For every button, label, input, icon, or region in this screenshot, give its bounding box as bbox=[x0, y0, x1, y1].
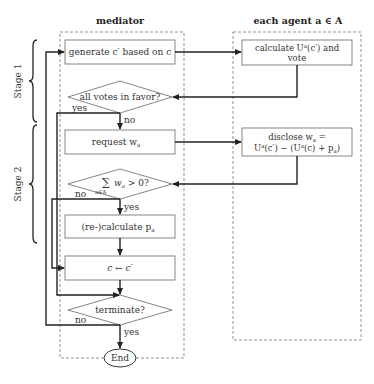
mediator-header: mediator bbox=[96, 15, 145, 26]
votes-yes-label: yes bbox=[71, 103, 87, 113]
stage1-label: Stage 1 bbox=[13, 64, 23, 99]
assign-label: c ← c′ bbox=[107, 263, 132, 273]
terminate-yes-label: yes bbox=[123, 327, 139, 337]
sum-condition: wa > 0? bbox=[114, 178, 149, 189]
stage2-label: Stage 2 bbox=[13, 167, 23, 202]
votes-no-label: no bbox=[124, 115, 135, 125]
generate-label: generate c′ based on c bbox=[69, 47, 171, 57]
edge-calculate-votes bbox=[173, 65, 297, 97]
terminate-label: terminate? bbox=[95, 305, 145, 315]
recalculate-label: (re-)calculate pa bbox=[82, 222, 156, 233]
agent-header: each agent a ∈ A bbox=[254, 15, 343, 26]
disclose-label-line2: Ua(c′) − (Ua(c) + pa) bbox=[254, 143, 340, 154]
request-label: request wa bbox=[92, 137, 141, 148]
all-votes-label: all votes in favor? bbox=[80, 92, 161, 102]
sum-symbol: ∑ bbox=[102, 176, 110, 189]
sum-no-label: no bbox=[75, 189, 86, 199]
end-label: End bbox=[111, 353, 129, 363]
edge-disclose-sum bbox=[173, 156, 297, 184]
disclose-label-line1: disclose wa = bbox=[268, 132, 326, 143]
sum-index: a∈A bbox=[95, 189, 107, 195]
calculate-label-line2: vote bbox=[287, 53, 306, 63]
terminate-no-label: no bbox=[75, 315, 86, 325]
sum-yes-label: yes bbox=[123, 202, 139, 212]
stage1-brace bbox=[29, 40, 37, 122]
flowchart: mediator each agent a ∈ A Stage 1 Stage … bbox=[0, 0, 374, 384]
calculate-label-line1: calculate Ua(c′) and bbox=[255, 43, 340, 53]
stage2-brace bbox=[29, 125, 37, 243]
